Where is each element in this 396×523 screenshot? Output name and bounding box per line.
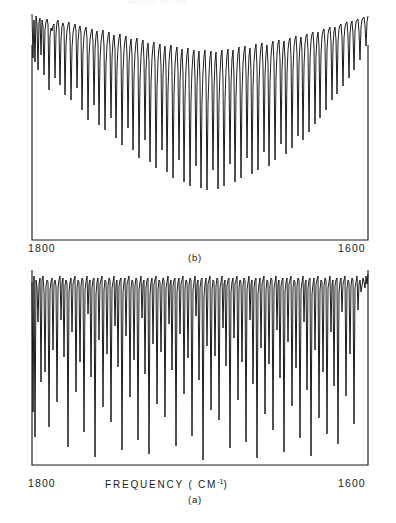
x-axis-caption-tail: )	[223, 479, 228, 490]
panel-b-xtick-right: 1600	[338, 242, 366, 254]
panel-a-plot	[0, 262, 396, 472]
panel-b-xtick-left: 1800	[28, 242, 56, 254]
panel-a-trace	[32, 274, 368, 460]
panel-a-tag: (a)	[188, 494, 202, 505]
panel-b-trace	[32, 14, 368, 190]
panel-b-plot	[0, 0, 396, 250]
panel-a-xtick-left: 1800	[28, 477, 56, 489]
x-axis-caption-main: FREQUENCY ( CM	[105, 479, 217, 490]
x-axis-caption: FREQUENCY ( CM-1)	[105, 478, 229, 490]
panel-a-xtick-right: 1600	[338, 477, 366, 489]
spectrum-figure: EMISSION SPECTRA RELATIVE SPECTRAL ENERG…	[0, 0, 396, 523]
